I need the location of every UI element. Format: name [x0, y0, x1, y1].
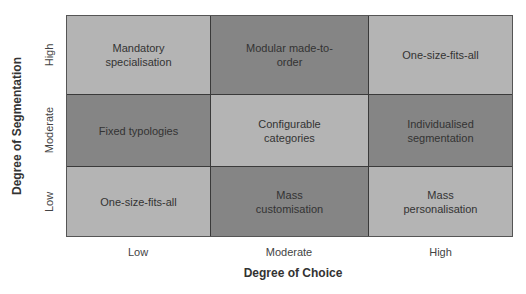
cell-moderate-low: Fixed typologies — [67, 95, 211, 167]
y-axis-label: Degree of Segmentation — [6, 15, 28, 237]
cell-moderate-high: Individualised segmentation — [369, 95, 512, 167]
cell-label: Mass customisation — [245, 188, 335, 216]
y-tick-moderate: Moderate — [34, 94, 64, 166]
y-tick-low: Low — [34, 166, 64, 237]
cell-high-high: One-size-fits-all — [369, 16, 512, 95]
x-tick-low: Low — [66, 246, 210, 258]
cell-label: Mandatory specialisation — [84, 41, 194, 69]
x-tick-moderate: Moderate — [210, 246, 368, 258]
y-tick-high: High — [34, 15, 64, 94]
y-tick-label: Moderate — [43, 107, 55, 153]
cell-label: Individualised segmentation — [391, 117, 491, 145]
cell-label: One-size-fits-all — [100, 195, 176, 209]
cell-label: Mass personalisation — [396, 188, 486, 216]
y-tick-label: High — [43, 43, 55, 66]
x-tick-high: High — [368, 246, 513, 258]
cell-label: Fixed typologies — [99, 124, 179, 138]
cell-low-low: One-size-fits-all — [67, 167, 211, 236]
cell-label: Configurable categories — [245, 117, 335, 145]
cell-label: One-size-fits-all — [402, 48, 478, 62]
segmentation-choice-matrix: Mandatory specialisation Modular made-to… — [66, 15, 513, 237]
y-axis-label-text: Degree of Segmentation — [10, 57, 24, 195]
x-axis-label: Degree of Choice — [0, 266, 526, 280]
cell-label: Modular made-to-order — [240, 41, 340, 69]
cell-high-moderate: Modular made-to-order — [211, 16, 369, 95]
cell-low-high: Mass personalisation — [369, 167, 512, 236]
cell-moderate-moderate: Configurable categories — [211, 95, 369, 167]
y-tick-label: Low — [43, 191, 55, 211]
cell-low-moderate: Mass customisation — [211, 167, 369, 236]
cell-high-low: Mandatory specialisation — [67, 16, 211, 95]
